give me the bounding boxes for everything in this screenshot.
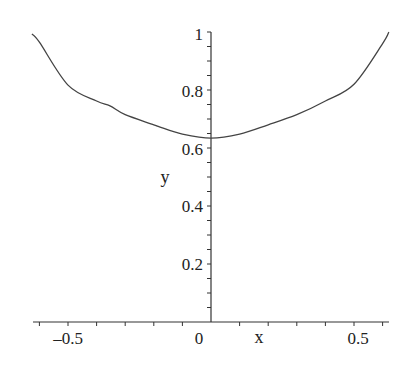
x-axis-label: x [255, 327, 264, 347]
x-tick-label-neg-0-5: –0.5 [52, 329, 83, 348]
y-tick-label-0-2: 0.2 [182, 255, 203, 274]
x-tick-label-0-5: 0.5 [347, 329, 368, 348]
y-axis-label: y [161, 167, 170, 187]
chart-plot: –0.5 0 0.5 0.2 0.4 0.6 0.8 1 x y [0, 0, 413, 366]
y-tick-label-1: 1 [195, 25, 204, 44]
x-tick-label-0: 0 [195, 329, 204, 348]
y-tick-label-0-8: 0.8 [182, 82, 203, 101]
y-tick-label-0-6: 0.6 [182, 140, 203, 159]
y-tick-label-0-4: 0.4 [182, 197, 204, 216]
